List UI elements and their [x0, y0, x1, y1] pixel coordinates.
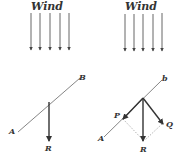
left-wind-arrows — [31, 13, 69, 50]
dotted-line-qr — [145, 124, 162, 140]
right-panel: Wind A b P Q R — [97, 0, 173, 154]
label-p: P — [113, 110, 121, 120]
label-b: b — [162, 73, 168, 83]
label-r: R — [44, 143, 52, 153]
label-a: A — [97, 133, 104, 143]
label-a: A — [8, 126, 15, 136]
right-wind-title: Wind — [125, 0, 157, 13]
component-arrow-p — [123, 98, 143, 119]
label-q: Q — [166, 119, 173, 129]
dotted-line-pr — [123, 119, 143, 140]
label-b: B — [78, 72, 86, 82]
label-r: R — [139, 144, 147, 154]
left-panel: Wind A B R — [8, 0, 86, 153]
right-wind-arrows — [125, 13, 162, 51]
wind-force-diagram: Wind A B R Wind A b P — [0, 0, 182, 156]
component-arrow-q — [143, 98, 163, 124]
left-wind-title: Wind — [31, 0, 63, 13]
